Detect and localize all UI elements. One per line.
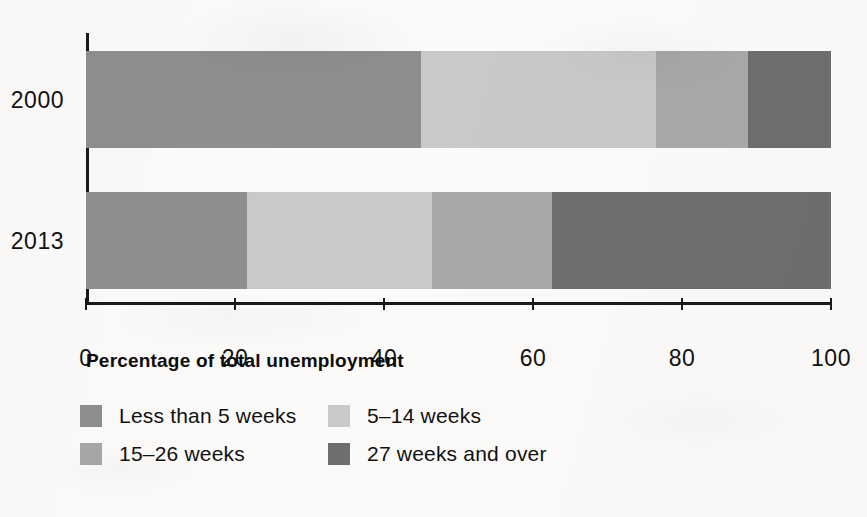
chart-figure: 020406080100 20002013 Percentage of tota… xyxy=(0,0,867,517)
legend-label: 15–26 weeks xyxy=(119,442,245,466)
bar-category-label: 2000 xyxy=(11,86,64,113)
bar-category-label: 2013 xyxy=(11,227,64,254)
legend-swatch-icon xyxy=(80,443,102,465)
x-tick-label: 100 xyxy=(811,345,851,372)
legend-swatch-icon xyxy=(328,405,350,427)
bar-segment xyxy=(432,192,552,289)
legend-item[interactable]: Less than 5 weeks xyxy=(80,404,328,428)
bar-group: 2013 xyxy=(86,192,831,289)
bar-segment xyxy=(86,51,421,148)
bar-segment xyxy=(656,51,748,148)
x-tick-mark xyxy=(830,298,832,310)
x-tick-label: 80 xyxy=(669,345,696,372)
legend-item[interactable]: 5–14 weeks xyxy=(328,404,608,428)
legend-label: 5–14 weeks xyxy=(367,404,481,428)
legend-swatch-icon xyxy=(80,405,102,427)
bar-segment xyxy=(247,192,433,289)
x-tick-mark xyxy=(234,298,236,310)
legend-label: 27 weeks and over xyxy=(367,442,547,466)
legend-swatch-icon xyxy=(328,443,350,465)
chart-legend: Less than 5 weeks5–14 weeks15–26 weeks27… xyxy=(80,404,640,480)
bar-segment xyxy=(748,51,831,148)
legend-row: Less than 5 weeks5–14 weeks xyxy=(80,404,640,428)
legend-label: Less than 5 weeks xyxy=(119,404,296,428)
plot-area: 020406080100 20002013 xyxy=(86,33,831,305)
bar-segment xyxy=(421,51,656,148)
x-axis-line xyxy=(86,302,831,305)
bar-group: 2000 xyxy=(86,51,831,148)
x-tick-mark xyxy=(532,298,534,310)
x-tick-label: 60 xyxy=(520,345,547,372)
legend-item[interactable]: 27 weeks and over xyxy=(328,442,608,466)
legend-item[interactable]: 15–26 weeks xyxy=(80,442,328,466)
bar-segment xyxy=(552,192,831,289)
legend-row: 15–26 weeks27 weeks and over xyxy=(80,442,640,466)
x-axis-title: Percentage of total unemployment xyxy=(86,350,404,372)
bar-segment xyxy=(86,192,247,289)
x-tick-mark xyxy=(383,298,385,310)
x-tick-mark xyxy=(85,298,87,310)
x-tick-mark xyxy=(681,298,683,310)
